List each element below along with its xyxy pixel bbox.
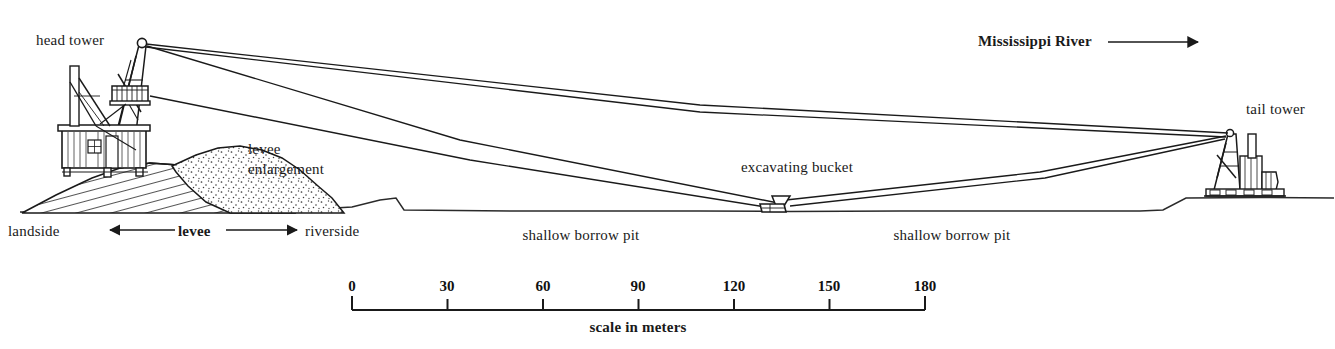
scale-label-180: 180 xyxy=(914,278,937,295)
scale-caption: scale in meters xyxy=(589,318,686,337)
head-tower-machine-house xyxy=(58,125,150,168)
scale-label-90: 90 xyxy=(631,278,646,295)
riverside-label: riverside xyxy=(305,222,359,241)
scale-label-30: 30 xyxy=(440,278,455,295)
scale-bar-graphic xyxy=(352,296,925,310)
excavating-bucket-label: excavating bucket xyxy=(741,158,853,177)
scale-label-60: 60 xyxy=(536,278,551,295)
shallow-borrow-pit-label-left: shallow borrow pit xyxy=(523,226,640,245)
tail-tower-base xyxy=(1204,189,1286,196)
head-tower-assembly xyxy=(58,38,150,177)
landside-label: landside xyxy=(8,222,60,241)
levee-label: levee xyxy=(178,222,211,241)
tail-tower-label: tail tower xyxy=(1246,100,1305,119)
scale-label-0: 0 xyxy=(348,278,356,295)
secondary-track-cable xyxy=(146,47,1226,137)
levee-enlargement-label-line2: enlargement xyxy=(248,160,324,179)
tail-tower-housing xyxy=(1240,134,1278,190)
tail-tower-assembly xyxy=(1204,129,1286,196)
scale-label-120: 120 xyxy=(723,278,746,295)
shallow-borrow-pit-label-right: shallow borrow pit xyxy=(894,226,1011,245)
excavating-bucket xyxy=(760,196,790,212)
scale-label-150: 150 xyxy=(818,278,841,295)
tail-tower-mast xyxy=(1214,129,1240,190)
head-tower-label: head tower xyxy=(36,31,104,50)
head-tower-operator-platform xyxy=(110,86,150,105)
levee-enlargement-label-line1: levee xyxy=(248,140,281,159)
levee-cableway-diagram: head tower tail tower excavating bucket … xyxy=(0,0,1335,349)
diagram-canvas xyxy=(0,0,1335,349)
main-track-cable xyxy=(146,44,1228,133)
mississippi-river-label: Mississippi River xyxy=(978,32,1092,51)
